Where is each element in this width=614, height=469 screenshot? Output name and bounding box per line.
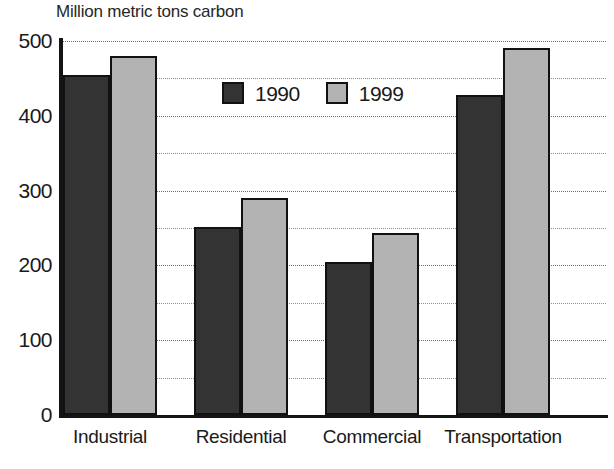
legend-swatch-1999 bbox=[326, 82, 348, 104]
y-tick-label-500: 500 bbox=[0, 29, 52, 53]
bar-commercial-1990 bbox=[325, 262, 372, 415]
category-label-transportation: Transportation bbox=[444, 426, 562, 448]
bar-transportation-1990 bbox=[456, 95, 503, 415]
bar-industrial-1990 bbox=[63, 75, 110, 415]
category-label-commercial: Commercial bbox=[323, 426, 421, 448]
gridline-500 bbox=[63, 41, 606, 42]
y-tick-label-200: 200 bbox=[0, 253, 52, 277]
legend: 19901999 bbox=[222, 82, 403, 104]
legend-item-1990: 1990 bbox=[222, 82, 300, 104]
bar-industrial-1999 bbox=[110, 56, 157, 415]
legend-label-1990: 1990 bbox=[255, 83, 300, 104]
category-label-residential: Residential bbox=[196, 426, 287, 448]
y-tick-label-0: 0 bbox=[0, 403, 52, 427]
legend-label-1999: 1999 bbox=[359, 83, 404, 104]
bar-commercial-1999 bbox=[372, 233, 419, 415]
y-tick-label-400: 400 bbox=[0, 104, 52, 128]
legend-swatch-1990 bbox=[222, 82, 244, 104]
y-tick-label-300: 300 bbox=[0, 179, 52, 203]
x-axis-line bbox=[59, 415, 608, 418]
y-tick-label-100: 100 bbox=[0, 328, 52, 352]
bar-residential-1990 bbox=[194, 227, 241, 415]
category-label-industrial: Industrial bbox=[73, 426, 147, 448]
bar-chart: Million metric tons carbon 5004003002001… bbox=[0, 0, 614, 469]
bar-residential-1999 bbox=[241, 198, 288, 415]
legend-item-1999: 1999 bbox=[326, 82, 404, 104]
chart-title: Million metric tons carbon bbox=[56, 2, 244, 22]
bar-transportation-1999 bbox=[503, 48, 550, 415]
